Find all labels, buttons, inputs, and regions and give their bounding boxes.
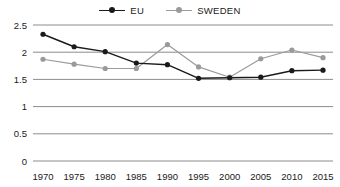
x-tick-label: 1980 [95, 171, 116, 182]
x-tick-label: 2005 [250, 171, 271, 182]
line-chart: EU SWEDEN 00.511.522.5 19701975198019851… [0, 0, 340, 187]
x-tick-label: 1975 [64, 171, 85, 182]
x-tick-label: 2015 [312, 171, 333, 182]
x-tick-label: 1970 [32, 171, 53, 182]
y-tick-label: 2 [22, 47, 27, 58]
x-tick-label: 1995 [188, 171, 209, 182]
gridlines [33, 25, 333, 161]
data-point-eu [165, 62, 170, 67]
y-tick-label: 0.5 [14, 128, 27, 139]
data-point-sweden [289, 47, 294, 52]
data-point-eu [258, 75, 263, 80]
data-point-eu [289, 68, 294, 73]
y-tick-label: 2.5 [14, 20, 27, 31]
data-point-eu [72, 44, 77, 49]
data-point-eu [227, 75, 232, 80]
y-tick-label: 0 [22, 156, 27, 167]
y-tick-label: 1 [22, 101, 27, 112]
data-point-eu [103, 49, 108, 54]
data-point-eu [40, 32, 45, 37]
data-point-eu [196, 76, 201, 81]
y-tick-label: 1.5 [14, 74, 27, 85]
x-tick-label: 2000 [219, 171, 240, 182]
y-axis-tick-labels: 00.511.522.5 [14, 20, 27, 167]
data-point-eu [134, 60, 139, 65]
data-point-sweden [134, 66, 139, 71]
data-point-sweden [258, 56, 263, 61]
x-tick-label: 2010 [281, 171, 302, 182]
data-point-sweden [165, 42, 170, 47]
x-axis-tick-labels: 1970197519801985199019952000200520102015 [32, 171, 333, 182]
data-point-sweden [320, 55, 325, 60]
data-point-sweden [196, 64, 201, 69]
data-point-eu [320, 68, 325, 73]
x-tick-label: 1985 [126, 171, 147, 182]
data-point-sweden [103, 66, 108, 71]
plot-area: 00.511.522.5 197019751980198519901995200… [0, 0, 340, 187]
data-point-sweden [72, 62, 77, 67]
x-tick-label: 1990 [157, 171, 178, 182]
data-point-sweden [40, 57, 45, 62]
data-series-group [40, 32, 325, 81]
